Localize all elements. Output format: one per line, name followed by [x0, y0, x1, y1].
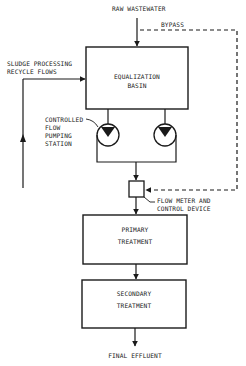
pump-left-icon: [97, 124, 119, 146]
pumping-label-line2: FLOW: [45, 124, 60, 132]
flow-meter-box: [129, 181, 144, 197]
sludge-label-line2: RECYCLE FLOWS: [7, 68, 57, 76]
primary-label-line2: TREATMENT: [83, 238, 187, 246]
bypass-label: BYPASS: [161, 21, 184, 29]
pump-right-icon: [154, 124, 176, 146]
recycle-up-arrow-icon: [20, 134, 26, 142]
primary-label-line1: PRIMARY: [83, 226, 187, 234]
flow-meter-leader: [144, 197, 155, 202]
secondary-label-line2: TREATMENT: [82, 302, 186, 310]
pumping-label-line3: PUMPING: [45, 132, 72, 140]
flowmeter-label-line2: CONTROL DEVICE: [157, 205, 211, 213]
equalization-label-line1: EQUALIZATION: [86, 73, 188, 81]
flowmeter-label-line1: FLOW METER AND: [157, 197, 211, 205]
pumping-label-line1: CONTROLLED: [45, 116, 83, 124]
equalization-label-line2: BASIN: [86, 82, 188, 90]
sludge-label-line1: SLUDGE PROCESSING: [7, 60, 72, 68]
final-effluent-label: FINAL EFFLUENT: [85, 352, 185, 360]
process-flow-diagram: [0, 0, 246, 366]
pumping-label-line4: STATION: [45, 140, 72, 148]
secondary-label-line1: SECONDARY: [82, 290, 186, 298]
raw-wastewater-label: RAW WASTEWATER: [112, 5, 166, 13]
pumping-label-leader: [86, 119, 98, 127]
